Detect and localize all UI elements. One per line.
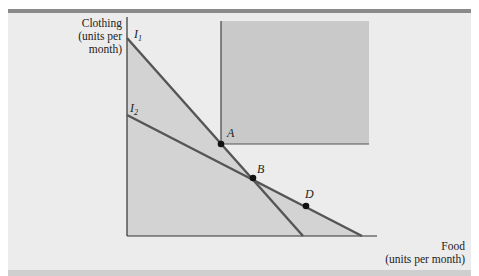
y-axis-label: Clothing (units per month) [40, 17, 122, 56]
y-axis-label-line2: (units per [40, 30, 122, 43]
point-a-label: A [227, 126, 234, 141]
preferred-region-square [221, 21, 369, 144]
x-axis-label-line2: (units per month) [340, 253, 465, 266]
curve-i2-label: I2 [130, 101, 138, 117]
point-b-marker [250, 175, 257, 182]
y-axis-label-line1: Clothing [40, 17, 122, 30]
curve-i1-label: I1 [134, 27, 142, 43]
point-d-marker [303, 203, 310, 210]
y-axis-label-line3: month) [40, 43, 122, 56]
point-a-marker [218, 141, 225, 148]
point-d-label: D [305, 187, 314, 202]
point-b-label: B [257, 162, 264, 177]
x-axis-label-line1: Food [340, 240, 465, 253]
x-axis-label: Food (units per month) [340, 240, 465, 266]
